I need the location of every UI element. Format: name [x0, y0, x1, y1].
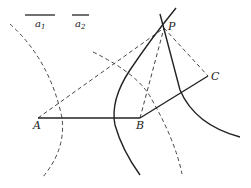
label-point-A: A — [32, 119, 41, 132]
dashed-arc-right — [93, 52, 182, 174]
reference-segment-a1: a1 — [25, 15, 55, 31]
geometric-construction-diagram: a1 a2 P A B C — [0, 0, 251, 188]
dashed-line-A-P — [38, 28, 164, 118]
label-a1: a1 — [35, 18, 45, 31]
dashed-line-B-P — [140, 28, 164, 118]
label-point-B: B — [135, 119, 144, 132]
solid-curve-left — [114, 8, 176, 175]
label-a2: a2 — [75, 18, 86, 31]
reference-segment-a2: a2 — [72, 15, 89, 31]
label-point-P: P — [167, 20, 176, 33]
dashed-arc-left — [10, 24, 63, 178]
label-point-C: C — [211, 70, 220, 83]
